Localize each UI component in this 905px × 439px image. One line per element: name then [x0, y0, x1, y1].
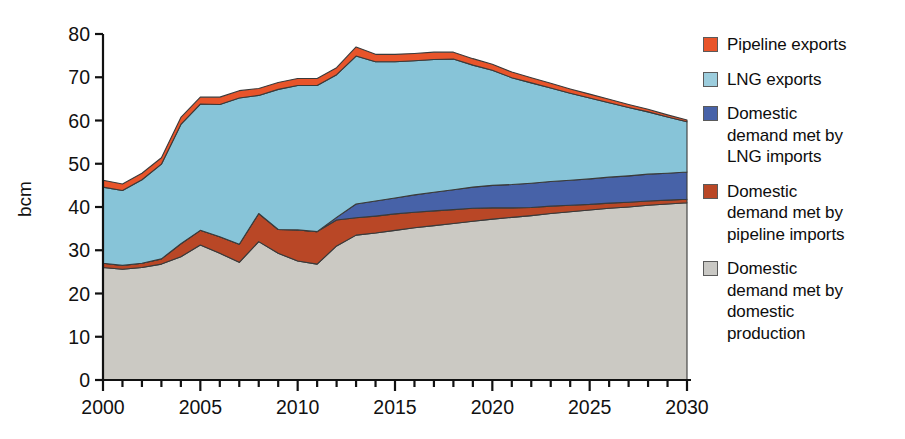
legend-item-label: Domestic demand met by pipeline imports	[727, 181, 844, 246]
y-axis-tick-label: 10	[68, 326, 90, 348]
legend-color-swatch	[703, 106, 718, 121]
legend-item[interactable]: Domestic demand met by domestic producti…	[703, 258, 903, 344]
y-axis-tick-label: 70	[68, 66, 90, 88]
legend-item-label: Pipeline exports	[727, 34, 846, 56]
y-axis-tick-label: 40	[68, 196, 90, 218]
x-axis-tick-label: 2005	[179, 396, 223, 418]
y-axis-tick-label: 60	[68, 110, 90, 132]
chart-legend: Pipeline exportsLNG exportsDomestic dema…	[703, 34, 903, 357]
series-bands-group	[103, 47, 687, 380]
legend-item-label: LNG exports	[727, 69, 821, 91]
x-axis-tick-label: 2015	[373, 396, 417, 418]
y-axis-tick-label: 50	[68, 153, 90, 175]
legend-item-label: Domestic demand met by domestic producti…	[727, 258, 843, 344]
y-axis-tick-label: 30	[68, 239, 90, 261]
x-axis-tick-label: 2010	[276, 396, 320, 418]
y-axis-tick-label: 0	[79, 369, 90, 391]
legend-color-swatch	[703, 37, 718, 52]
legend-item[interactable]: LNG exports	[703, 69, 903, 91]
y-axis-tick-label: 80	[68, 23, 90, 45]
legend-item-label: Domestic demand met by LNG imports	[727, 103, 843, 168]
x-axis-tick-label: 2000	[81, 396, 125, 418]
x-axis-tick-label: 2020	[471, 396, 515, 418]
stacked-area-chart-figure: 0102030405060708020002005201020152020202…	[0, 0, 905, 439]
legend-color-swatch	[703, 261, 718, 276]
legend-color-swatch	[703, 72, 718, 87]
legend-item[interactable]: Domestic demand met by LNG imports	[703, 103, 903, 168]
y-axis-title: bcm	[14, 181, 35, 217]
legend-item[interactable]: Pipeline exports	[703, 34, 903, 56]
x-axis-tick-label: 2030	[665, 396, 709, 418]
x-axis-tick-label: 2025	[568, 396, 612, 418]
y-axis-tick-label: 20	[68, 283, 90, 305]
legend-item[interactable]: Domestic demand met by pipeline imports	[703, 181, 903, 246]
legend-color-swatch	[703, 184, 718, 199]
